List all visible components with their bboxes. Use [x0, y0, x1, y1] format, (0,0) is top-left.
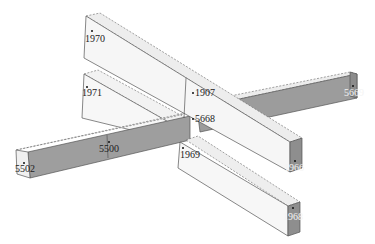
svg-text:1907: 1907: [195, 87, 215, 98]
node-5502: 5502: [15, 162, 35, 174]
svg-text:1966: 1966: [284, 162, 304, 173]
svg-text:5669: 5669: [344, 87, 364, 98]
svg-text:5502: 5502: [15, 163, 35, 174]
svg-text:5500: 5500: [99, 143, 119, 154]
node-5668: 5668: [192, 113, 215, 124]
svg-text:1970: 1970: [85, 33, 105, 44]
node-1907: 1907: [192, 87, 215, 98]
node-1966: 1966: [284, 160, 304, 173]
node-5500: 5500: [99, 141, 119, 154]
beam-grid-diagram: 1970 1971 1907 5669 5668 5500 1969 5502 …: [0, 0, 375, 244]
svg-text:1971: 1971: [82, 87, 102, 98]
svg-text:5668: 5668: [195, 113, 215, 124]
node-5669: 5669: [344, 85, 364, 98]
svg-text:1968: 1968: [283, 211, 303, 222]
node-1971: 1971: [82, 86, 102, 98]
node-1970: 1970: [85, 30, 105, 44]
node-1969: 1969: [180, 147, 200, 160]
svg-text:1969: 1969: [180, 149, 200, 160]
